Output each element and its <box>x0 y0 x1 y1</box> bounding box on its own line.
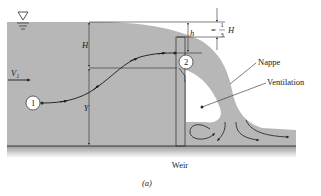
h-label: h <box>190 28 194 38</box>
one-third-H-annotation: = 1 3 H <box>211 21 235 38</box>
point-2-marker: 2 <box>179 55 193 69</box>
weir-plate <box>176 37 185 146</box>
equals-sign: = <box>211 25 216 35</box>
nappe-label: Nappe <box>258 57 280 67</box>
point-2-dot <box>173 51 176 54</box>
weir-diagram: 1 2 H Y h V 1 = 1 3 H Nappe Ventilation … <box>0 0 321 196</box>
point-1-marker: 1 <box>26 96 40 110</box>
figure-caption: (a) <box>142 178 152 188</box>
channel-bed-shadow <box>7 146 296 158</box>
weir-label: Weir <box>172 160 188 170</box>
point-2-label: 2 <box>184 57 188 67</box>
V1-subscript: 1 <box>17 73 20 79</box>
point-1-label: 1 <box>31 98 35 108</box>
water-body <box>7 22 296 146</box>
point-1-dot <box>40 101 43 104</box>
H-label: H <box>81 40 89 50</box>
fraction-denominator: 3 <box>220 31 223 38</box>
ventilation-label: Ventilation <box>267 77 305 87</box>
nappe-leader <box>230 63 256 84</box>
fraction-H: H <box>227 25 235 35</box>
fraction-numerator: 1 <box>220 21 223 28</box>
